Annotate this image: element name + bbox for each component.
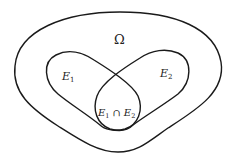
intersection-left-sub: 1 xyxy=(105,112,109,120)
set-e1-outline xyxy=(46,52,140,130)
set-e2-label: E2 xyxy=(159,67,173,81)
intersection-right-sub: 2 xyxy=(131,112,135,120)
set-e2-base: E xyxy=(159,67,168,80)
set-e1-sub: 1 xyxy=(70,76,74,84)
set-e2-sub: 2 xyxy=(168,73,172,81)
intersection-operator: ∩ xyxy=(112,107,120,118)
set-e1-label: E1 xyxy=(61,70,75,84)
venn-diagram: Ω E1 E2 E1∩E2 xyxy=(0,0,234,161)
universe-label: Ω xyxy=(114,32,125,47)
set-e1-base: E xyxy=(61,70,70,83)
intersection-label: E1∩E2 xyxy=(97,107,135,120)
